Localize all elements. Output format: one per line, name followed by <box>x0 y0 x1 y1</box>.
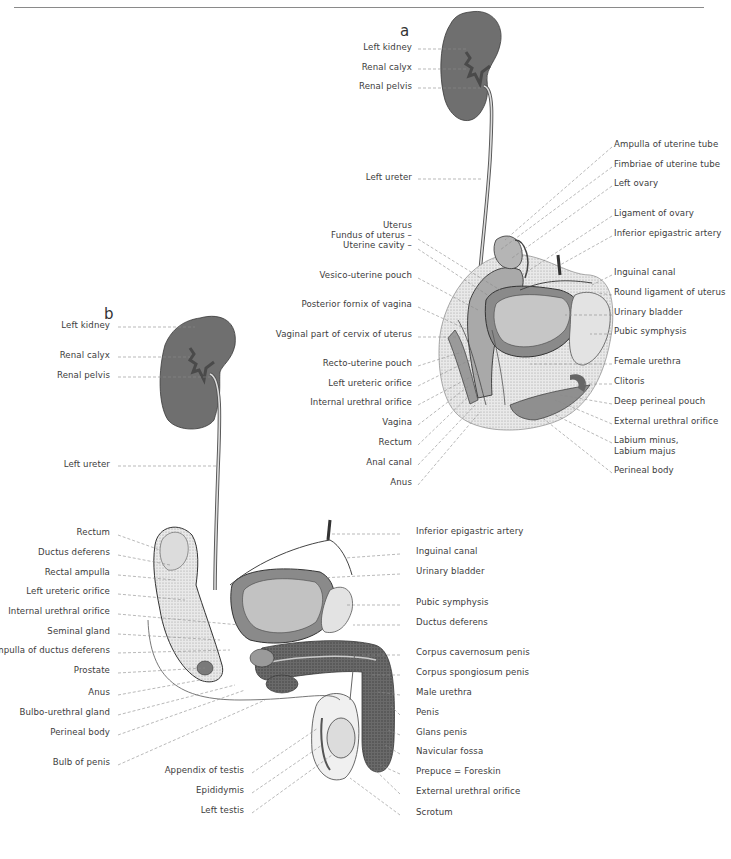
anatomy-label: Left ureter <box>64 459 110 470</box>
anatomy-label: Posterior fornix of vagina <box>301 299 412 310</box>
anatomy-label: Anus <box>390 477 412 488</box>
anatomy-label: Glans penis <box>416 727 467 738</box>
anatomy-label: Penis <box>416 707 439 718</box>
anatomy-label: Inguinal canal <box>416 546 478 557</box>
anatomy-label: Vaginal part of cervix of uterus <box>276 329 412 340</box>
anatomy-label: Prostate <box>74 665 110 676</box>
anatomy-label: Appendix of testis <box>165 765 244 776</box>
anatomy-label: External urethral orifice <box>416 786 520 797</box>
anatomy-label: Renal pelvis <box>359 81 412 92</box>
anatomy-label: Internal urethral orifice <box>310 397 412 408</box>
anatomy-label: Left ureter <box>366 172 412 183</box>
anatomy-label: Seminal gland <box>47 626 110 637</box>
anatomy-label: Anus <box>88 687 110 698</box>
anatomy-label: Labium majus <box>614 446 676 457</box>
anatomy-label: Navicular fossa <box>416 746 483 757</box>
anatomy-label: Ligament of ovary <box>614 208 694 219</box>
anatomy-label: Urinary bladder <box>614 307 683 318</box>
anatomy-label: Vagina <box>382 417 412 428</box>
panel-a-female-pelvis <box>439 236 613 430</box>
anatomy-label: Urinary bladder <box>416 566 485 577</box>
anatomy-label: Left testis <box>201 805 244 816</box>
anatomy-label: Bulbo-urethral gland <box>19 707 110 718</box>
anatomy-label: Scrotum <box>416 807 453 818</box>
anatomy-label: Inferior epigastric artery <box>614 228 722 239</box>
anatomy-label: Deep perineal pouch <box>614 396 705 407</box>
panel-a-kidney <box>441 11 501 300</box>
anatomy-label: Fimbriae of uterine tube <box>614 159 720 170</box>
anatomy-label: Rectum <box>379 437 412 448</box>
anatomy-label: External urethral orifice <box>614 416 718 427</box>
anatomy-label: Round ligament of uterus <box>614 287 726 298</box>
panel-a-letter: a <box>400 24 409 39</box>
anatomy-label: Rectum <box>77 527 110 538</box>
anatomy-label: Left ureteric orifice <box>26 586 110 597</box>
anatomy-label: Prepuce = Foreskin <box>416 766 501 777</box>
anatomy-label: Recto-uterine pouch <box>323 358 412 369</box>
anatomy-label: Bulb of penis <box>53 757 110 768</box>
anatomy-label: Left ovary <box>614 178 658 189</box>
anatomy-label: Ampulla of ductus deferens <box>0 645 110 656</box>
anatomy-label: Labium minus, <box>614 435 679 446</box>
anatomy-label: Epididymis <box>196 785 244 796</box>
anatomy-label: Female urethra <box>614 356 681 367</box>
anatomy-label: Pubic symphysis <box>416 597 489 608</box>
anatomy-label: Inguinal canal <box>614 267 676 278</box>
anatomy-label: Renal pelvis <box>57 370 110 381</box>
anatomy-label: Male urethra <box>416 687 472 698</box>
anatomy-label: Uterine cavity – <box>343 240 412 251</box>
anatomy-label: Anal canal <box>366 457 412 468</box>
anatomy-label: Clitoris <box>614 376 645 387</box>
anatomy-label: Inferior epigastric artery <box>416 526 524 537</box>
anatomy-label: Left ureteric orifice <box>328 378 412 389</box>
anatomy-label: Perineal body <box>614 465 674 476</box>
anatomy-label: Ductus deferens <box>38 547 110 558</box>
panel-b-male-pelvis <box>148 520 394 780</box>
anatomy-label: Ductus deferens <box>416 617 488 628</box>
anatomy-label: Left kidney <box>61 320 110 331</box>
anatomy-label: Pubic symphysis <box>614 326 687 337</box>
anatomy-label: Renal calyx <box>362 62 412 73</box>
anatomy-label: Perineal body <box>50 727 110 738</box>
anatomy-label: Vesico-uterine pouch <box>320 270 412 281</box>
anatomy-label: Corpus cavernosum penis <box>416 647 530 658</box>
anatomy-label: Rectal ampulla <box>45 567 110 578</box>
anatomy-label: Left kidney <box>363 42 412 53</box>
anatomy-label: Renal calyx <box>60 350 110 361</box>
anatomy-label: Ampulla of uterine tube <box>614 139 718 150</box>
anatomy-label: Corpus spongiosum penis <box>416 667 529 678</box>
anatomy-label: Internal urethral orifice <box>8 606 110 617</box>
